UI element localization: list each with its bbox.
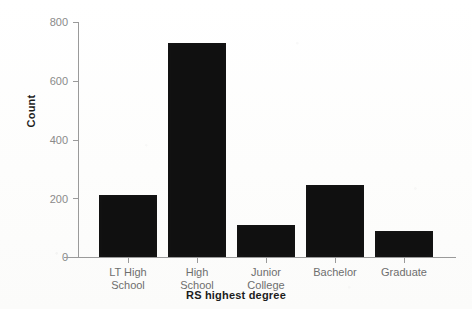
y-tick-label-600: 600 [34,76,68,87]
x-tick-mark-lt-high-school [128,258,129,263]
x-tick-mark-bachelor [335,258,336,263]
bar-graduate [375,231,433,257]
y-tick-label-200: 200 [34,194,68,205]
bar-junior-college [237,225,295,257]
bar-chart: Count 800 600 400 200 0 LT High School H… [0,0,472,309]
x-axis-line [64,257,456,258]
x-tick-label-line1: High [157,266,237,279]
bar-high-school [168,43,226,257]
y-axis-tick-labels: 800 600 400 200 0 [34,0,68,309]
x-tick-mark-junior-college [266,258,267,263]
x-tick-label-graduate: Graduate [364,266,444,279]
x-tick-label-junior-college: Junior College [226,266,306,291]
x-tick-mark-graduate [404,258,405,263]
x-tick-label-bachelor: Bachelor [295,266,375,279]
x-tick-label-lt-high-school: LT High School [88,266,168,291]
x-axis-title: RS highest degree [0,289,472,301]
y-tick-label-400: 400 [34,135,68,146]
x-tick-label-line1: Junior [226,266,306,279]
bar-bachelor [306,185,364,257]
x-tick-mark-high-school [197,258,198,263]
y-tick-label-0: 0 [34,252,68,263]
x-tick-label-high-school: High School [157,266,237,291]
x-tick-label-line1: Bachelor [295,266,375,279]
x-tick-label-line1: LT High [88,266,168,279]
y-tick-label-800: 800 [34,17,68,28]
x-tick-label-line1: Graduate [364,266,444,279]
plot-area [79,22,456,257]
bar-lt-high-school [99,195,157,257]
